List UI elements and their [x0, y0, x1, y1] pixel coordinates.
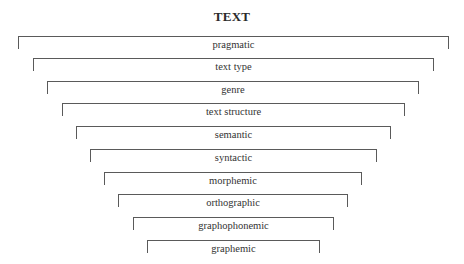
level-label: graphemic: [148, 243, 319, 255]
level-bracket-syntactic: syntactic: [90, 149, 377, 162]
level-label: pragmatic: [19, 39, 448, 51]
level-bracket-graphemic: graphemic: [147, 240, 320, 253]
level-bracket-text-structure: text structure: [62, 103, 405, 116]
level-label: text structure: [63, 106, 404, 118]
level-bracket-semantic: semantic: [76, 126, 391, 139]
level-bracket-morphemic: morphemic: [104, 172, 362, 185]
level-label: semantic: [77, 129, 390, 141]
level-bracket-genre: genre: [47, 81, 419, 94]
level-bracket-orthographic: orthographic: [118, 194, 348, 207]
level-label: text type: [34, 61, 433, 73]
level-bracket-text-type: text type: [33, 58, 434, 71]
level-label: morphemic: [105, 175, 361, 187]
level-label: orthographic: [119, 197, 347, 209]
level-bracket-graphophonemic: graphophonemic: [133, 217, 334, 230]
level-label: graphophonemic: [134, 220, 333, 232]
diagram-title: TEXT: [0, 9, 464, 25]
level-label: genre: [48, 84, 418, 96]
level-bracket-pragmatic: pragmatic: [18, 36, 449, 49]
level-label: syntactic: [91, 152, 376, 164]
